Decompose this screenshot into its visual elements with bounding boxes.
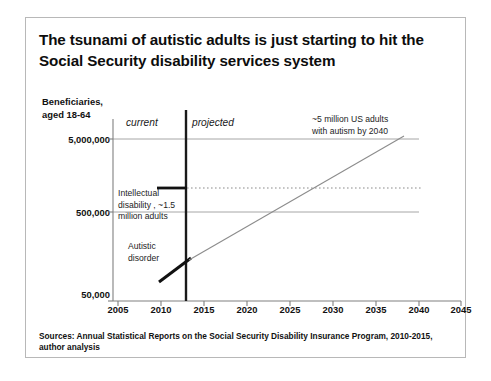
plot-vector-layer xyxy=(26,18,467,359)
chart-figure: Beneficiaries, aged 18-64 5,000,000 500,… xyxy=(26,18,467,359)
slide-card: The tsunami of autistic adults is just s… xyxy=(25,17,466,358)
source-footnote: Sources: Annual Statistical Reports on t… xyxy=(39,331,459,353)
series-autistic-disorder-projected xyxy=(189,136,404,260)
x-axis-ticks xyxy=(118,301,461,306)
